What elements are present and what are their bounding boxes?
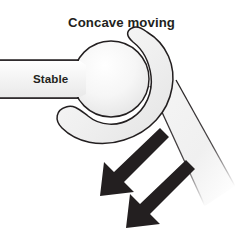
concave-moving-figure: Concave moving Stable xyxy=(0,0,243,242)
stable-label: Stable xyxy=(33,72,69,85)
diagram-canvas: Concave moving Stable xyxy=(0,0,243,242)
figure-title: Concave moving xyxy=(68,15,175,30)
figure-background xyxy=(0,0,243,242)
